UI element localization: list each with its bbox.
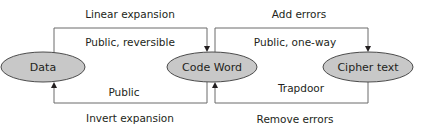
node-label: Code Word bbox=[182, 61, 242, 74]
node-label: Data bbox=[30, 61, 56, 74]
edge-sublabel-public-one-way: Public, one-way bbox=[254, 36, 336, 48]
edge-label-linear-expansion: Linear expansion bbox=[85, 8, 175, 20]
node-code-word: Code Word bbox=[167, 52, 257, 82]
node-data: Data bbox=[1, 52, 85, 82]
node-label: Cipher text bbox=[337, 61, 399, 74]
edge-sublabel-public: Public bbox=[108, 86, 139, 98]
arrow-up-icon bbox=[212, 82, 218, 88]
edge-label-add-errors: Add errors bbox=[272, 8, 327, 20]
edge-sublabel-public-reversible: Public, reversible bbox=[85, 36, 175, 48]
arrow-up-icon bbox=[51, 82, 57, 88]
edge-label-invert-expansion: Invert expansion bbox=[86, 112, 174, 124]
code-based-crypto-diagram: Data Code Word Cipher text Linear expans… bbox=[0, 0, 427, 134]
edge-label-remove-errors: Remove errors bbox=[257, 113, 334, 125]
arrow-down-icon bbox=[365, 46, 371, 52]
edge-sublabel-trapdoor: Trapdoor bbox=[277, 82, 325, 94]
node-cipher-text: Cipher text bbox=[323, 52, 413, 82]
arrow-down-icon bbox=[204, 46, 210, 52]
